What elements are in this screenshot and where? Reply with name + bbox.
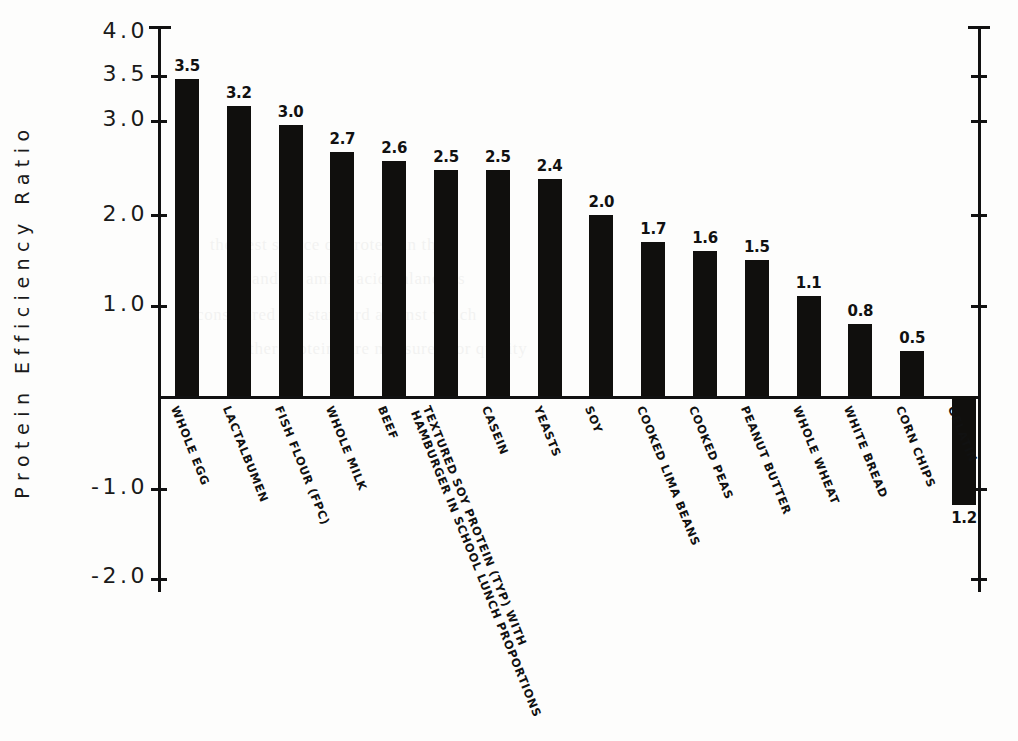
bar-value-label: 1.7 <box>630 220 676 238</box>
bar <box>745 260 769 396</box>
category-label: BEEF <box>375 404 401 442</box>
bar-value-label: 1.5 <box>734 238 780 256</box>
bar <box>848 324 872 396</box>
bar-value-label: 2.5 <box>475 148 521 166</box>
bar <box>382 161 406 396</box>
y-tick-label: 2.0 <box>103 201 149 226</box>
figure-caption <box>0 721 1018 737</box>
bar <box>900 351 924 396</box>
bar-value-label: 2.4 <box>527 157 573 175</box>
category-label: CASEIN <box>479 404 511 457</box>
category-label: FISH FLOUR (FPC) <box>272 404 333 527</box>
bar <box>589 215 613 396</box>
bar <box>330 152 354 396</box>
category-label: COOKED PEAS <box>686 404 736 501</box>
category-label: LACTALBUMEN <box>220 404 271 504</box>
bar <box>486 170 510 396</box>
y-tick-label: 4.0 <box>103 18 149 43</box>
bar-value-label: 1.6 <box>682 229 728 247</box>
category-label: PEANUT BUTTER <box>738 404 794 517</box>
bar <box>279 125 303 397</box>
bar <box>797 296 821 396</box>
bar-value-label: 1.1 <box>786 274 832 292</box>
bar <box>693 251 717 396</box>
category-label: WHOLE EGG <box>168 404 213 487</box>
bar-chart-figure: Protein Efficiency Ratio 4.0 3.5 3.0 2.0… <box>0 0 1018 741</box>
category-label: WHOLE WHEAT <box>790 404 842 507</box>
bar-value-label: 2.5 <box>423 148 469 166</box>
bar-value-label: 3.2 <box>216 84 262 102</box>
category-label-line: HAMBURGER IN SCHOOL LUNCH PROPORTIONS <box>408 409 543 719</box>
category-label: TEXTURED SOY PROTEIN (TYP) WITHHAMBURGER… <box>408 404 556 719</box>
category-label: WHOLE MILK <box>323 404 370 493</box>
bar-value-label: 2.0 <box>578 193 624 211</box>
y-axis-tick-labels: 4.0 3.5 3.0 2.0 1.0 -1.0 -2.0 <box>40 0 148 620</box>
bar <box>434 170 458 396</box>
bar-value-label: 0.8 <box>837 302 883 320</box>
bar <box>538 179 562 396</box>
bar <box>175 79 199 396</box>
y-axis-title: Protein Efficiency Ratio <box>11 31 33 591</box>
category-label: SOY <box>582 404 605 435</box>
y-tick-label: 3.0 <box>103 106 149 131</box>
y-tick-label: -2.0 <box>91 563 148 588</box>
y-tick-label: 1.0 <box>103 291 149 316</box>
bar-value-label: 0.5 <box>889 329 935 347</box>
y-tick-label: -1.0 <box>91 474 148 499</box>
category-label-line: TEXTURED SOY PROTEIN (TYP) WITH <box>420 404 530 648</box>
bar-value-label: 2.7 <box>319 130 365 148</box>
bar-value-label: 2.6 <box>371 139 417 157</box>
y-tick-label: 3.5 <box>103 61 149 86</box>
bar <box>227 106 251 396</box>
category-label: WHITE BREAD <box>841 404 891 500</box>
bar-value-label: 3.5 <box>164 57 210 75</box>
plot-area: 3.5WHOLE EGG3.2LACTALBUMEN3.0FISH FLOUR … <box>158 0 980 620</box>
category-label: CORN CHIPS <box>893 404 938 490</box>
bar-value-label: 3.0 <box>268 103 314 121</box>
bar-value-label: 1.2 <box>941 509 987 527</box>
category-label: YEASTS <box>531 404 564 459</box>
bar <box>641 242 665 396</box>
